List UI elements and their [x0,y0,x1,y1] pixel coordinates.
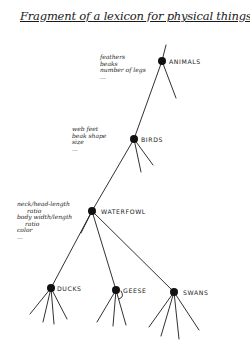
node-geese [112,286,120,294]
attribute: neck/head-length [17,201,72,208]
attributes-animals: feathers beaks number of legs ... [100,54,146,80]
edge-geese-1 [97,290,116,322]
attribute: color [17,227,72,234]
node-birds [130,135,138,143]
edge-geese-3 [116,290,126,325]
node-swans [170,288,178,296]
edge-swans-2 [161,292,174,336]
edge-animals-other [162,61,176,98]
diagram-title: Fragment of a lexicon for physical thing… [20,9,250,23]
node-animals [158,57,166,65]
node-waterfowl [88,207,96,215]
label-swans: SWANS [183,289,209,296]
label-geese: GEESE [123,287,146,294]
label-ducks: DUCKS [57,285,82,292]
label-waterfowl: WATERFOWL [101,208,146,215]
label-animals: ANIMALS [169,58,201,65]
lexicon-diagram: Fragment of a lexicon for physical thing… [0,0,250,350]
attributes-waterfowl: neck/head-length ratio body width/length… [17,201,72,241]
attribute: ... [17,234,72,241]
edge-geese-2 [113,290,116,326]
attribute: ... [100,74,146,81]
attribute: number of legs [100,67,146,74]
node-ducks [47,284,55,292]
tree-edges [0,0,250,350]
attribute: ... [72,146,106,153]
label-birds: BIRDS [141,136,163,143]
attributes-birds: web feet beak shape size ... [72,126,106,152]
edge-swans-1 [149,292,174,327]
